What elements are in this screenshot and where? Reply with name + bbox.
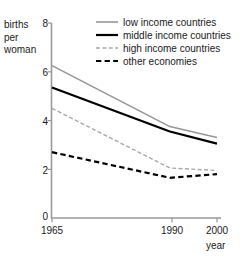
legend: low income countries middle income count… <box>96 16 238 68</box>
legend-item-low-income: low income countries <box>96 16 238 28</box>
legend-swatch-other-economies <box>96 56 118 66</box>
legend-swatch-low-income <box>96 17 118 27</box>
chart-figure: births per woman year 8 6 4 2 0 1965 199… <box>0 0 242 260</box>
series-line-low-income <box>52 66 217 138</box>
legend-item-high-income: high income countries <box>96 42 238 54</box>
legend-label-low-income: low income countries <box>123 17 216 28</box>
legend-item-other-economies: other economies <box>96 55 238 67</box>
legend-item-middle-income: middle income countries <box>96 29 238 41</box>
legend-swatch-middle-income <box>96 30 118 40</box>
legend-swatch-high-income <box>96 43 118 53</box>
series-line-middle-income <box>52 88 217 144</box>
legend-label-high-income: high income countries <box>123 43 220 54</box>
legend-label-middle-income: middle income countries <box>123 30 231 41</box>
legend-label-other-economies: other economies <box>123 56 197 67</box>
series-line-other-economies <box>52 152 217 178</box>
